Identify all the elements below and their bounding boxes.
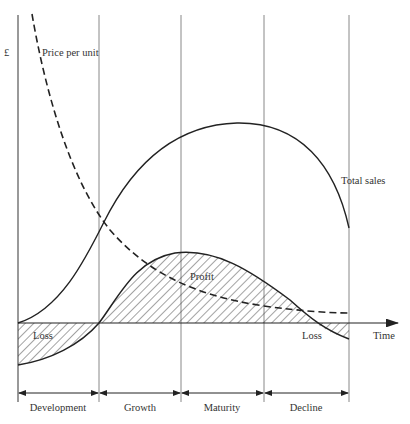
total-sales-label: Total sales xyxy=(341,175,385,186)
product-life-cycle-diagram: £ Price per unit Total sales Profit Loss… xyxy=(0,0,410,424)
y-axis-label: £ xyxy=(4,47,9,58)
loss-label-late: Loss xyxy=(302,330,322,341)
phase-label-decline: Decline xyxy=(290,402,323,413)
loss-region-early xyxy=(18,323,99,365)
price-per-unit-label: Price per unit xyxy=(42,47,99,58)
phase-label-development: Development xyxy=(30,402,87,413)
profit-label: Profit xyxy=(190,271,214,282)
phase-label-maturity: Maturity xyxy=(204,402,241,413)
time-axis-label: Time xyxy=(373,330,395,341)
phase-gridlines xyxy=(99,15,349,402)
loss-label-early: Loss xyxy=(33,330,53,341)
profit-region xyxy=(99,252,315,323)
phase-label-growth: Growth xyxy=(124,402,157,413)
